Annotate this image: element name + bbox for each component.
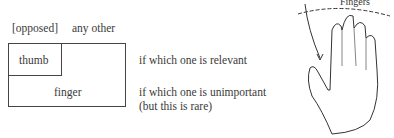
note-relevant: if which one is relevant [139,54,247,66]
opposed-label: [opposed] [12,22,58,34]
any-other-label: any other [72,22,115,34]
note-rare: (but this is rare) [139,100,212,112]
note-unimportant: if which one is unimportant [139,86,266,98]
hand-icon: Fingers [290,0,394,138]
fingers-label: Fingers [340,0,370,7]
finger-label: finger [54,86,81,98]
thumb-label: thumb [19,54,48,66]
